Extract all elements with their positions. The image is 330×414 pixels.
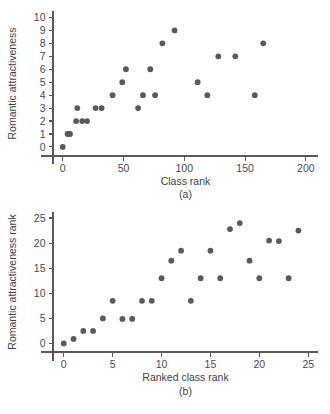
data-point (195, 79, 201, 85)
data-point (252, 92, 258, 98)
data-point (260, 40, 266, 46)
data-point (159, 275, 165, 281)
data-point (119, 79, 125, 85)
y-tick-label: 10 (34, 11, 46, 23)
y-tick-label: 3 (40, 102, 46, 114)
y-axis-title: Romantic attractiveness (6, 27, 18, 139)
x-tick-label: 5 (110, 358, 116, 370)
data-point (160, 40, 166, 46)
x-axis-title: Ranked class rank (142, 371, 229, 383)
data-point (178, 248, 184, 254)
panel-b-plot: 05101520250510152025Ranked class rankRom… (0, 195, 330, 414)
y-tick-label: 5 (40, 312, 46, 324)
data-point (135, 105, 141, 111)
data-point (296, 228, 302, 234)
y-tick-label: 10 (34, 287, 46, 299)
data-point (172, 28, 178, 34)
data-point (74, 105, 80, 111)
x-tick-label: 10 (156, 358, 168, 370)
data-point (139, 298, 145, 304)
x-tick-label: 50 (118, 162, 130, 174)
data-point (286, 275, 292, 281)
data-point (110, 298, 116, 304)
data-point (93, 105, 99, 111)
data-point (198, 275, 204, 281)
data-point (227, 226, 233, 232)
data-point (61, 341, 67, 347)
data-point (100, 315, 106, 321)
data-point (276, 238, 282, 244)
data-point (217, 275, 223, 281)
x-tick-label: 20 (253, 358, 265, 370)
y-tick-label: 5 (40, 76, 46, 88)
y-tick-label: 2 (40, 115, 46, 127)
y-tick-label: 20 (34, 237, 46, 249)
data-point (129, 316, 135, 322)
data-point (247, 258, 253, 264)
x-tick-label: 100 (176, 162, 194, 174)
x-tick-label: 0 (61, 358, 67, 370)
data-point (204, 92, 210, 98)
data-point (90, 328, 96, 334)
data-point (60, 144, 66, 150)
data-point (149, 298, 155, 304)
panel-b: 05101520250510152025Ranked class rankRom… (0, 195, 330, 414)
panel-label: (b) (179, 385, 192, 397)
x-tick-label: 0 (60, 162, 66, 174)
y-tick-label: 6 (40, 63, 46, 75)
data-point (232, 53, 238, 59)
data-point (71, 336, 77, 342)
data-point (152, 92, 158, 98)
x-tick-label: 150 (236, 162, 254, 174)
data-point (99, 105, 105, 111)
data-point (208, 248, 214, 254)
data-point (110, 92, 116, 98)
data-point (140, 92, 146, 98)
x-axis-title: Class rank (161, 175, 211, 187)
y-tick-label: 4 (40, 89, 46, 101)
scatterplot-figure: 012345678910050100150200Class rankRomant… (0, 0, 330, 414)
data-point (67, 131, 73, 137)
data-point (80, 328, 86, 334)
data-point (188, 298, 194, 304)
panel-a-plot: 012345678910050100150200Class rankRomant… (0, 0, 330, 200)
y-tick-label: 1 (40, 128, 46, 140)
panel-a: 012345678910050100150200Class rankRomant… (0, 0, 330, 200)
y-tick-label: 15 (34, 262, 46, 274)
y-tick-label: 7 (40, 50, 46, 62)
data-point (237, 220, 243, 226)
data-point (215, 53, 221, 59)
data-point (147, 66, 153, 72)
x-tick-label: 15 (205, 358, 217, 370)
data-point (256, 275, 262, 281)
data-point (123, 66, 129, 72)
x-tick-label: 200 (297, 162, 315, 174)
data-point (168, 258, 174, 264)
y-tick-label: 9 (40, 24, 46, 36)
data-point (266, 238, 272, 244)
y-axis-title: Romantic attractiveness rank (6, 214, 18, 350)
data-point (84, 118, 90, 124)
data-point (73, 118, 79, 124)
y-tick-label: 25 (34, 212, 46, 224)
y-tick-label: 8 (40, 37, 46, 49)
data-point (120, 316, 126, 322)
y-tick-label: 0 (40, 141, 46, 153)
x-tick-label: 25 (302, 358, 314, 370)
y-tick-label: 0 (40, 337, 46, 349)
